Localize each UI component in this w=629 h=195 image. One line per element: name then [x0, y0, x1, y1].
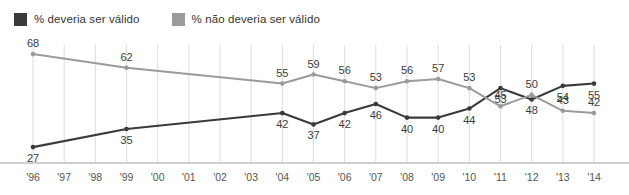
value-label-s1-1999: 62: [120, 51, 132, 63]
legend-swatch-icon: [14, 13, 27, 26]
x-tick-2011: '11: [494, 171, 507, 183]
value-label-s1-2010: 53: [463, 71, 475, 83]
legend-item-label: % deveria ser válido: [34, 13, 140, 25]
data-point-s0-2006[interactable]: [342, 111, 347, 116]
value-label-s0-1999: 35: [120, 134, 132, 146]
value-label-s1-2014: 42: [588, 96, 600, 108]
data-point-s0-2012[interactable]: [529, 97, 534, 102]
x-tick-2005: '05: [307, 171, 321, 183]
x-tick-1998: '98: [88, 171, 102, 183]
x-tick-2001: '01: [182, 171, 196, 183]
data-point-s0-2010[interactable]: [467, 106, 472, 111]
data-point-s1-2009[interactable]: [436, 77, 441, 82]
data-point-s0-2004[interactable]: [280, 111, 285, 116]
data-point-s0-2014[interactable]: [592, 81, 597, 86]
chart-plot-area: 2735423742464040445348545568625559565356…: [0, 40, 629, 166]
legend-item-1[interactable]: % não deveria ser válido: [172, 13, 320, 26]
data-point-s0-2013[interactable]: [561, 84, 566, 89]
value-label-s1-2004: 55: [276, 67, 288, 79]
x-tick-2002: '02: [213, 171, 227, 183]
value-label-s0-2005: 37: [307, 129, 319, 141]
x-tick-2010: '10: [462, 171, 476, 183]
data-point-s1-2010[interactable]: [467, 86, 472, 91]
value-label-s0-2010: 44: [463, 114, 475, 126]
x-tick-2012: '12: [525, 171, 539, 183]
legend-item-label: % não deveria ser válido: [192, 13, 320, 25]
value-label-s0-2007: 46: [370, 109, 382, 121]
data-point-s0-2007[interactable]: [374, 102, 379, 107]
data-point-s0-2008[interactable]: [405, 115, 410, 120]
value-label-s0-2012: 48: [526, 104, 538, 116]
data-point-s0-1999[interactable]: [124, 127, 129, 132]
data-point-s1-2014[interactable]: [592, 111, 597, 116]
chart-legend: % deveria ser válido% não deveria ser vá…: [14, 9, 352, 29]
legend-swatch-icon: [172, 13, 185, 26]
value-label-s0-2009: 40: [432, 123, 444, 135]
x-tick-2008: '08: [400, 171, 414, 183]
value-label-s0-2006: 42: [339, 118, 351, 130]
data-point-s1-1996[interactable]: [31, 52, 36, 57]
x-tick-1997: '97: [57, 171, 71, 183]
value-label-s0-1996: 27: [27, 152, 39, 164]
value-label-s0-2004: 42: [276, 118, 288, 130]
data-point-s0-2005[interactable]: [311, 122, 316, 127]
x-tick-2013: '13: [556, 171, 570, 183]
x-tick-2000: '00: [151, 171, 165, 183]
value-label-s1-2007: 53: [370, 71, 382, 83]
data-point-s1-2007[interactable]: [374, 86, 379, 91]
data-point-s1-2005[interactable]: [311, 72, 316, 77]
value-label-s1-2013: 43: [557, 94, 569, 106]
x-tick-2014: '14: [587, 171, 601, 183]
value-label-s1-2006: 56: [339, 64, 351, 76]
data-point-s1-2012[interactable]: [529, 93, 534, 98]
data-point-s1-2013[interactable]: [561, 109, 566, 114]
data-point-s0-2009[interactable]: [436, 115, 441, 120]
x-tick-2006: '06: [338, 171, 352, 183]
legend-item-0[interactable]: % deveria ser válido: [14, 13, 140, 26]
data-point-s1-2008[interactable]: [405, 79, 410, 84]
value-label-s1-2009: 57: [432, 62, 444, 74]
x-tick-1999: '99: [120, 171, 134, 183]
chart-root: % deveria ser válido% não deveria ser vá…: [0, 0, 629, 195]
value-label-s1-2012: 50: [526, 78, 538, 90]
value-label-s0-2008: 40: [401, 123, 413, 135]
x-tick-2003: '03: [244, 171, 258, 183]
data-point-s1-2006[interactable]: [342, 79, 347, 84]
value-label-s1-2011: 45: [494, 89, 506, 101]
x-tick-2004: '04: [275, 171, 289, 183]
value-label-s1-2008: 56: [401, 64, 413, 76]
x-tick-2007: '07: [369, 171, 383, 183]
x-tick-2009: '09: [431, 171, 445, 183]
data-point-s0-1996[interactable]: [31, 145, 36, 150]
x-tick-1996: '96: [26, 171, 40, 183]
data-point-s1-1999[interactable]: [124, 65, 129, 70]
data-point-s1-2004[interactable]: [280, 81, 285, 86]
x-axis: '96'97'98'99'00'01'02'03'04'05'06'07'08'…: [0, 166, 629, 192]
value-label-s1-2005: 59: [307, 58, 319, 70]
value-label-s1-1996: 68: [27, 37, 39, 49]
